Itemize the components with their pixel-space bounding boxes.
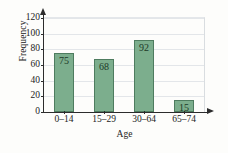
bar[interactable]: 75 <box>54 53 74 112</box>
bar-series: 75689215 <box>44 18 204 112</box>
y-axis-tick-labels: 020406080100120 <box>18 12 40 112</box>
x-tick-mark <box>64 111 65 114</box>
x-tick-label: 30–64 <box>132 114 156 124</box>
bar-value-label: 75 <box>59 55 69 66</box>
y-tick-label: 80 <box>31 43 41 53</box>
x-axis-title: Age <box>44 129 205 139</box>
x-axis-arrow-icon <box>207 108 214 114</box>
y-tick-label: 20 <box>31 90 41 100</box>
y-axis-arrow-icon <box>40 8 46 15</box>
x-tick-label: 65–74 <box>172 114 196 124</box>
y-tick-label: 120 <box>26 12 40 22</box>
y-tick-label: 40 <box>31 75 41 85</box>
y-axis-line <box>43 14 44 112</box>
bar-value-label: 68 <box>99 61 109 72</box>
bar-value-label: 92 <box>139 42 149 53</box>
plot-area: 75689215 <box>44 17 205 112</box>
y-tick-label: 60 <box>31 59 41 69</box>
bar[interactable]: 92 <box>134 40 154 112</box>
x-axis-tick-labels: 0–1415–2930–6465–74 <box>44 114 205 128</box>
x-tick-mark <box>104 111 105 114</box>
x-tick-mark <box>144 111 145 114</box>
x-tick-label: 0–14 <box>55 114 74 124</box>
y-tick-label: 100 <box>26 28 40 38</box>
x-tick-mark <box>184 111 185 114</box>
y-tick-label: 0 <box>35 106 40 116</box>
bar[interactable]: 68 <box>94 59 114 112</box>
bar-chart-figure: Frequency 020406080100120 75689215 0–141… <box>0 0 228 153</box>
x-tick-label: 15–29 <box>92 114 116 124</box>
